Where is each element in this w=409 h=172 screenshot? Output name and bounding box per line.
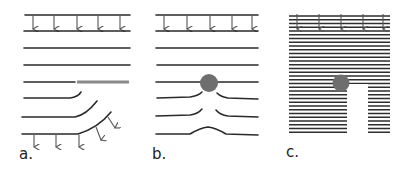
panel-a (22, 15, 130, 147)
obstacle-circle (200, 74, 218, 92)
obstacle-circle (333, 75, 350, 92)
diagram-canvas (0, 0, 409, 172)
panel-label-b: b. (152, 145, 166, 163)
panel-c (289, 14, 390, 136)
panel-label-c: c. (286, 143, 299, 161)
down-arrow-icon (33, 16, 120, 29)
dense-layers (289, 16, 390, 132)
panel-b (156, 15, 258, 135)
down-arrow-icon (164, 16, 252, 29)
panel-label-a: a. (19, 145, 33, 163)
